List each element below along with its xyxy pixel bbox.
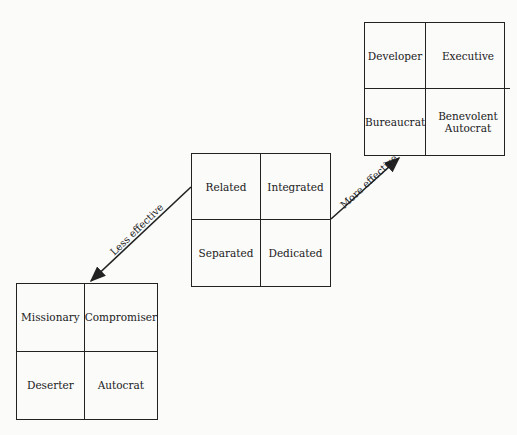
cell-dedicated: Dedicated	[261, 220, 330, 286]
cell-missionary: Missionary	[17, 284, 85, 352]
less-effective-arrow	[91, 187, 191, 281]
less-effective-grid: Missionary Compromiser Deserter Autocrat	[16, 283, 158, 420]
cell-compromiser: Compromiser	[85, 284, 157, 352]
cell-separated: Separated	[192, 220, 261, 286]
cell-related: Related	[192, 154, 261, 220]
more-effective-grid: Developer Executive Bureaucrat Benevolen…	[364, 22, 505, 156]
cell-autocrat: Autocrat	[85, 352, 157, 420]
cell-bureaucrat: Bureaucrat	[365, 89, 426, 155]
cell-deserter: Deserter	[17, 352, 85, 420]
cell-executive: Executive	[426, 23, 510, 89]
cell-developer: Developer	[365, 23, 426, 89]
center-grid: Related Integrated Separated Dedicated	[191, 153, 331, 287]
cell-integrated: Integrated	[261, 154, 330, 220]
cell-benevolent-autocrat: Benevolent Autocrat	[426, 89, 510, 155]
